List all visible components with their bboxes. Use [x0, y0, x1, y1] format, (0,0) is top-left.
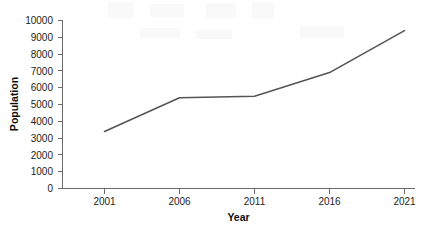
x-tick-label: 2006 — [168, 196, 191, 207]
y-tick-label: 7000 — [31, 66, 54, 77]
y-tick-label: 0 — [47, 183, 53, 194]
y-tick-label: 2000 — [31, 150, 54, 161]
y-tick-label: 1000 — [31, 166, 54, 177]
y-tick-label: 5000 — [31, 99, 54, 110]
chart-canvas: 10000 9000 8000 7000 6000 5000 4000 3000… — [0, 0, 428, 230]
x-axis-title: Year — [227, 211, 249, 223]
y-tick-label: 4000 — [31, 116, 54, 127]
x-tick-label: 2016 — [318, 196, 341, 207]
y-tick-label: 8000 — [31, 49, 54, 60]
y-axis: 10000 9000 8000 7000 6000 5000 4000 3000… — [25, 15, 62, 194]
plot-area — [105, 31, 405, 132]
y-tick-label: 10000 — [25, 15, 53, 26]
y-axis-title: Population — [8, 77, 20, 131]
population-series-line — [105, 31, 405, 132]
population-line-chart: 10000 9000 8000 7000 6000 5000 4000 3000… — [0, 0, 428, 230]
y-tick-label: 3000 — [31, 133, 54, 144]
y-tick-label: 9000 — [31, 32, 54, 43]
y-tick-label: 6000 — [31, 82, 54, 93]
x-tick-label: 2001 — [93, 196, 116, 207]
x-axis: 2001 2006 2011 2016 2021 — [63, 189, 417, 208]
x-tick-label: 2011 — [244, 196, 266, 207]
x-tick-label: 2021 — [393, 196, 416, 207]
